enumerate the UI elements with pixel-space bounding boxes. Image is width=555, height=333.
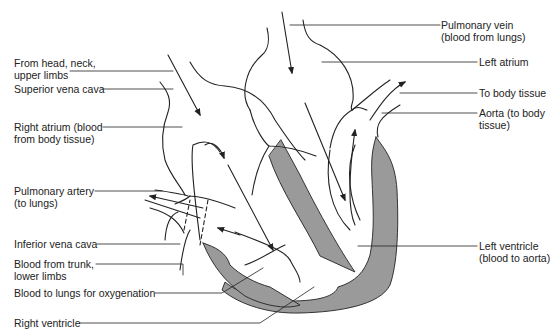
label-right-atrium: Right atrium (blood from body tissue) (14, 121, 103, 145)
label-pulmonary-vein: Pulmonary vein (blood from lungs) (441, 19, 526, 43)
label-blood-from-trunk: Blood from trunk, lower limbs (14, 258, 94, 282)
label-right-ventricle: Right ventricle (14, 317, 81, 329)
heart-diagram: From head, neck, upper limbs Superior ve… (0, 0, 555, 333)
label-to-body-tissue: To body tissue (479, 87, 546, 99)
label-inferior-vena-cava: Inferior vena cava (14, 238, 97, 250)
label-left-ventricle: Left ventricle (blood to aorta) (479, 240, 550, 264)
label-blood-to-lungs: Blood to lungs for oxygenation (14, 287, 155, 299)
label-left-atrium: Left atrium (479, 56, 529, 68)
label-superior-vena-cava: Superior vena cava (14, 83, 104, 95)
label-pulmonary-artery: Pulmonary artery (to lungs) (14, 185, 94, 209)
heart-illustration (0, 0, 555, 333)
label-from-head: From head, neck, upper limbs (14, 57, 96, 81)
label-aorta: Aorta (to body tissue) (479, 107, 545, 131)
